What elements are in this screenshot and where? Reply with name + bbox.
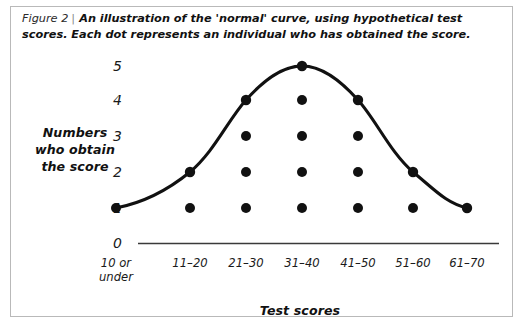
data-dot <box>408 167 418 177</box>
data-dot <box>297 167 307 177</box>
data-dot <box>185 203 195 213</box>
x-axis-title: Test scores <box>200 303 400 318</box>
data-dot <box>241 203 251 213</box>
data-dot <box>297 203 307 213</box>
data-dot <box>241 131 251 141</box>
data-dot <box>353 131 363 141</box>
normal-curve <box>116 66 467 208</box>
x-tick-1-line-1: 10 or <box>78 256 154 270</box>
x-tick-1: 10 or under <box>78 256 154 284</box>
figure-root: Figure 2|An illustration of the 'normal'… <box>0 0 523 334</box>
data-dot <box>462 203 472 213</box>
data-dot <box>353 95 363 105</box>
data-dot <box>297 95 307 105</box>
data-dot <box>241 167 251 177</box>
data-dot <box>353 203 363 213</box>
x-tick-7: 61–70 <box>429 256 505 270</box>
data-dot <box>185 167 195 177</box>
data-dot <box>408 203 418 213</box>
x-tick-1-line-2: under <box>78 270 154 284</box>
data-dot <box>241 95 251 105</box>
data-dot <box>353 167 363 177</box>
data-dot <box>297 61 307 71</box>
data-dot <box>297 131 307 141</box>
data-dot <box>111 203 121 213</box>
chart-plot-area: Numbers who obtain the score 5 4 3 2 1 0 <box>0 0 523 334</box>
